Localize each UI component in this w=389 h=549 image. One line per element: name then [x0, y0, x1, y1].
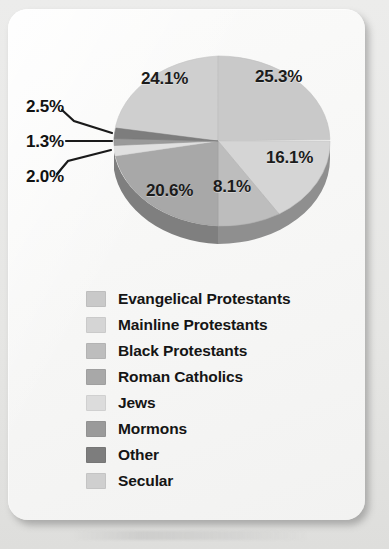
legend-swatch-icon — [86, 447, 106, 463]
chart-legend: Evangelical Protestants Mainline Protest… — [86, 286, 346, 494]
page-bottom-artifact — [70, 531, 310, 540]
pie-label-mainline: 16.1% — [266, 148, 313, 168]
pie-label-evangelical: 25.3% — [255, 67, 302, 87]
legend-swatch-icon — [86, 473, 106, 489]
legend-item-roman-catholics[interactable]: Roman Catholics — [86, 364, 346, 390]
legend-swatch-icon — [86, 369, 106, 385]
leader-line-other — [62, 110, 112, 133]
pie-callout-mormons: 1.3% — [26, 132, 64, 152]
legend-swatch-icon — [86, 291, 106, 307]
legend-item-black-protestants[interactable]: Black Protestants — [86, 338, 346, 364]
legend-label: Mormons — [118, 420, 187, 438]
legend-label: Roman Catholics — [118, 368, 243, 386]
screenshot-root: 25.3% 24.1% 16.1% 8.1% 20.6% 2.5% 1.3% 2… — [0, 0, 389, 549]
legend-swatch-icon — [86, 317, 106, 333]
legend-swatch-icon — [86, 395, 106, 411]
pie-label-secular: 24.1% — [141, 69, 188, 89]
pie-label-roman-catholics: 20.6% — [146, 181, 193, 201]
legend-item-other[interactable]: Other — [86, 442, 346, 468]
legend-label: Jews — [118, 394, 156, 412]
leader-line-jews — [57, 150, 111, 174]
legend-item-mormons[interactable]: Mormons — [86, 416, 346, 442]
callout-leader-lines — [57, 110, 112, 174]
pie-callout-jews: 2.0% — [26, 167, 64, 187]
legend-item-mainline-protestants[interactable]: Mainline Protestants — [86, 312, 346, 338]
legend-item-evangelical-protestants[interactable]: Evangelical Protestants — [86, 286, 346, 312]
legend-swatch-icon — [86, 343, 106, 359]
legend-label: Black Protestants — [118, 342, 247, 360]
legend-label: Secular — [118, 472, 173, 490]
legend-label: Evangelical Protestants — [118, 290, 291, 308]
legend-item-jews[interactable]: Jews — [86, 390, 346, 416]
pie-chart-figure: 25.3% 24.1% 16.1% 8.1% 20.6% 2.5% 1.3% 2… — [8, 9, 365, 520]
legend-item-secular[interactable]: Secular — [86, 468, 346, 494]
legend-label: Other — [118, 446, 159, 464]
legend-label: Mainline Protestants — [118, 316, 268, 334]
pie-callout-other: 2.5% — [26, 97, 64, 117]
legend-swatch-icon — [86, 421, 106, 437]
pie-label-black-protestants: 8.1% — [213, 177, 251, 197]
